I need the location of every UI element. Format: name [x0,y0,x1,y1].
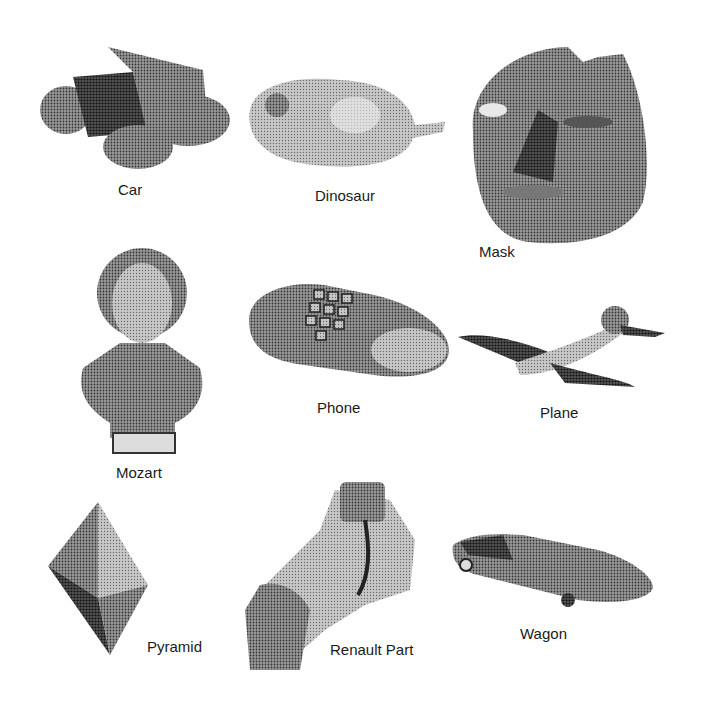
dinosaur-label: Dinosaur [315,187,375,204]
mask-model-image [458,42,658,247]
pyramid-label: Pyramid [147,638,202,655]
figure-canvas: Car Dinosaur Mask Mozart [0,0,703,717]
wagon-label: Wagon [520,625,567,642]
mozart-label: Mozart [116,464,162,481]
car-model-image [38,42,243,172]
mask-label: Mask [479,243,515,260]
dinosaur-model-image [245,70,450,175]
plane-label: Plane [540,404,578,421]
wagon-model-image [448,530,658,615]
phone-model-image [244,275,454,385]
car-label: Car [118,181,142,198]
renault-part-label: Renault Part [330,641,413,658]
pyramid-model-image [46,500,151,658]
phone-label: Phone [317,399,360,416]
mozart-model-image [75,248,210,458]
plane-model-image [455,305,670,390]
